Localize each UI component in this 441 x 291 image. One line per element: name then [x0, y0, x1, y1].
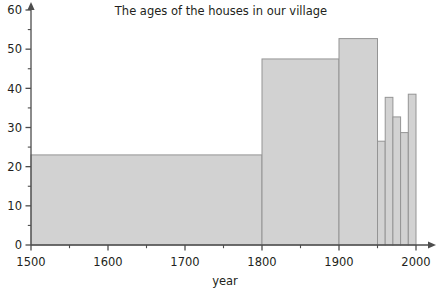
y-axis-ticks: [26, 10, 32, 245]
y-tick-label: 10: [7, 199, 22, 213]
y-tick-label: 30: [7, 121, 22, 135]
histogram-bar: [31, 155, 262, 245]
histogram-bar: [339, 39, 378, 245]
chart-canvas: 0102030405060 150016001700180019002000 T…: [0, 0, 441, 291]
x-axis-label: year: [212, 274, 238, 288]
chart-title: The ages of the houses in our village: [114, 4, 327, 18]
bars-group: [31, 39, 416, 245]
x-tick-label: 1500: [16, 255, 45, 269]
y-tick-label: 0: [15, 238, 22, 252]
histogram-bar: [401, 133, 409, 245]
y-axis-tick-labels: 0102030405060: [7, 3, 22, 252]
x-tick-label: 1800: [247, 255, 276, 269]
x-tick-label: 1900: [324, 255, 353, 269]
x-axis-ticks: [31, 245, 416, 251]
histogram-bar: [393, 117, 401, 245]
y-tick-label: 50: [7, 42, 22, 56]
x-axis-arrow-icon: [428, 241, 436, 248]
y-tick-label: 40: [7, 82, 22, 96]
x-tick-label: 1600: [93, 255, 122, 269]
x-tick-label: 1700: [170, 255, 199, 269]
histogram-bar: [408, 94, 416, 245]
histogram-bar: [378, 141, 386, 245]
x-axis-tick-labels: 150016001700180019002000: [16, 255, 430, 269]
y-axis-arrow-icon: [27, 2, 34, 10]
y-tick-label: 20: [7, 160, 22, 174]
histogram-chart: 0102030405060 150016001700180019002000 T…: [0, 0, 441, 291]
y-tick-label: 60: [7, 3, 22, 17]
x-tick-label: 2000: [401, 255, 430, 269]
histogram-bar: [262, 59, 339, 245]
histogram-bar: [385, 97, 393, 245]
